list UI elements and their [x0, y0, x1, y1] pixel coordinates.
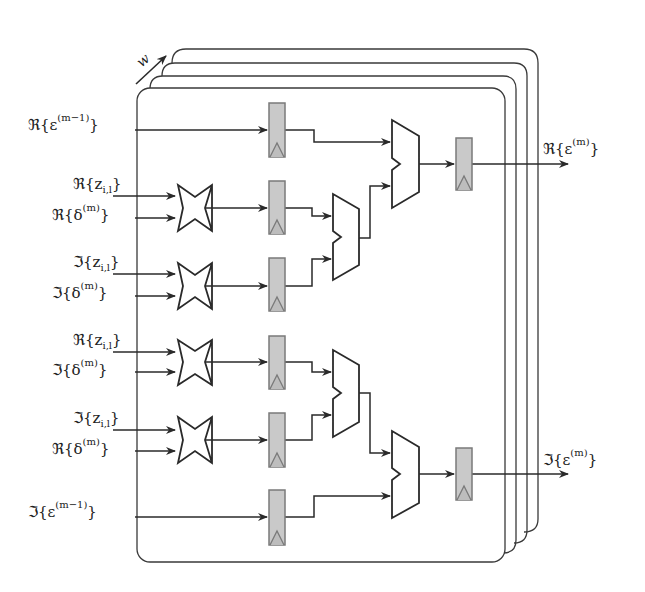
input-label-im-delta-1: ℑ{δ(m)} [52, 284, 107, 301]
input-label-re-z-2: ℜ{zi,l} [73, 333, 122, 351]
input-label-im-eps-prev: ℑ{ε(m−1)} [28, 503, 97, 520]
input-label-im-z-1: ℑ{zi,l} [73, 255, 120, 273]
output-label-re-eps: ℜ{ε(m)} [543, 140, 599, 157]
input-label-im-delta-2: ℑ{δ(m)} [52, 361, 107, 378]
input-label-re-eps-prev: ℜ{ε(m−1)} [28, 116, 99, 133]
input-label-re-delta-1: ℜ{δ(m)} [52, 206, 109, 223]
input-label-re-z-1: ℜ{zi,l} [73, 177, 122, 195]
input-label-im-z-2: ℑ{zi,l} [73, 411, 120, 429]
lane-frames [137, 49, 538, 562]
lane-frame-front [137, 88, 505, 562]
output-label-im-eps: ℑ{ε(m)} [543, 451, 597, 468]
input-label-re-delta-2: ℜ{δ(m)} [52, 440, 109, 457]
